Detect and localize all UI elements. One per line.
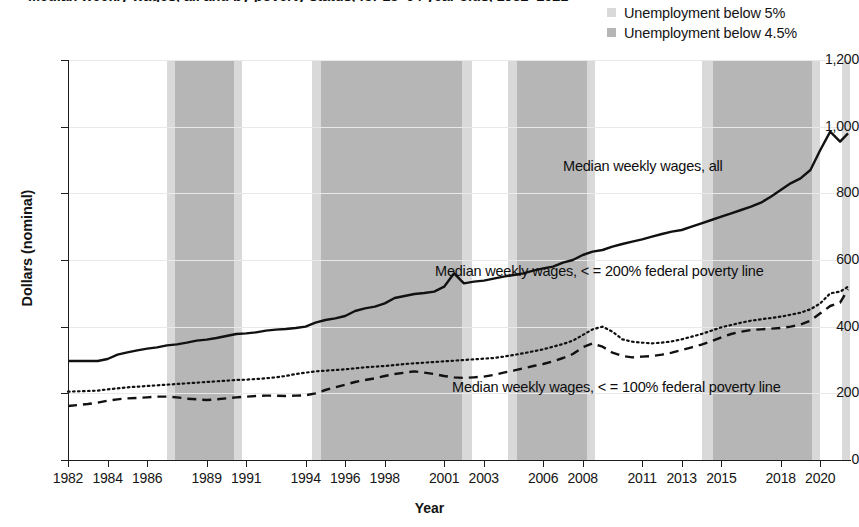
- x-axis-tick: [781, 461, 782, 467]
- y-axis-title: Dollars (nominal): [19, 158, 35, 338]
- y-axis-tick: [61, 193, 68, 194]
- x-axis-tick: [246, 461, 247, 467]
- annotation-wages-all: Median weekly wages, all: [563, 158, 723, 174]
- series-line-fpl200: [68, 287, 848, 392]
- y-axis-tick-label: 800: [807, 184, 859, 200]
- series-layer: [68, 60, 850, 460]
- x-axis-tick-label: 2015: [694, 470, 748, 486]
- y-axis-tick-label: 200: [807, 384, 859, 400]
- y-axis-tick-label: 0: [807, 451, 859, 467]
- legend-label-unemployment-below-4-5: Unemployment below 4.5%: [624, 25, 797, 41]
- legend-swatch-dark: [607, 28, 616, 37]
- x-axis-tick: [682, 461, 683, 467]
- x-axis-tick: [147, 461, 148, 467]
- y-axis-tick: [61, 127, 68, 128]
- chart-legend: Unemployment below 5% Unemployment below…: [607, 3, 857, 43]
- x-axis-tick: [642, 461, 643, 467]
- y-axis-tick: [61, 460, 68, 461]
- x-axis-tick: [385, 461, 386, 467]
- annotation-wages-fpl200: Median weekly wages, < = 200% federal po…: [435, 263, 764, 279]
- y-axis-tick: [61, 393, 68, 394]
- legend-label-unemployment-below-5: Unemployment below 5%: [624, 5, 785, 21]
- chart-title: Median weekly wages, all and by poverty …: [28, 0, 728, 2]
- x-axis-tick: [484, 461, 485, 467]
- x-axis-tick-label: 1991: [219, 470, 273, 486]
- x-axis-tick-label: 2008: [556, 470, 610, 486]
- x-axis-tick: [207, 461, 208, 467]
- x-axis-tick-label: 1998: [358, 470, 412, 486]
- y-axis-tick-label: 400: [807, 318, 859, 334]
- y-axis-line: [68, 60, 69, 461]
- y-axis-tick-label: 1,200: [807, 51, 859, 67]
- chart-figure: Median weekly wages, all and by poverty …: [0, 0, 859, 527]
- y-axis-tick: [61, 260, 68, 261]
- x-axis-tick: [345, 461, 346, 467]
- x-axis-title: Year: [0, 500, 859, 516]
- x-axis-tick-label: 2003: [457, 470, 511, 486]
- x-axis-tick: [820, 461, 821, 467]
- y-axis-tick-label: 1,000: [807, 118, 859, 134]
- x-axis-tick: [68, 461, 69, 467]
- x-axis-tick: [721, 461, 722, 467]
- plot-area: [68, 60, 850, 460]
- y-axis-tick: [61, 60, 68, 61]
- legend-item-unemployment-below-4-5: Unemployment below 4.5%: [607, 23, 857, 42]
- x-axis-line: [68, 460, 851, 461]
- x-axis-tick: [583, 461, 584, 467]
- x-axis-tick: [306, 461, 307, 467]
- y-axis-tick-label: 600: [807, 251, 859, 267]
- legend-item-unemployment-below-5: Unemployment below 5%: [607, 3, 857, 22]
- x-axis-tick: [543, 461, 544, 467]
- annotation-wages-fpl100: Median weekly wages, < = 100% federal po…: [452, 379, 781, 395]
- series-line-all: [68, 132, 848, 361]
- legend-swatch-light: [607, 8, 616, 17]
- x-axis-tick-label: 1986: [120, 470, 174, 486]
- x-axis-tick: [108, 461, 109, 467]
- x-axis-tick: [444, 461, 445, 467]
- x-axis-tick-label: 2020: [793, 470, 847, 486]
- y-axis-tick: [61, 327, 68, 328]
